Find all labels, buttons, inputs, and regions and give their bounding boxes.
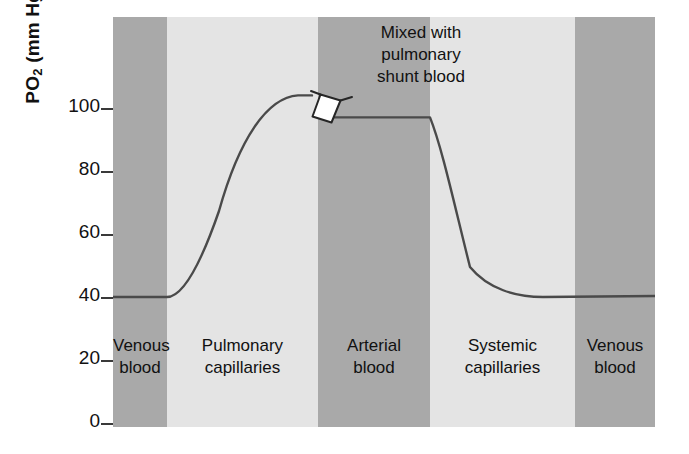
y-tick-mark-20 <box>101 360 113 362</box>
band-label-2: Arterialblood <box>318 335 430 379</box>
y-tick-mark-40 <box>101 297 113 299</box>
y-tick-label-20: 20 <box>52 347 100 369</box>
band-label-3: Systemiccapillaries <box>430 335 575 379</box>
y-tick-label-60: 60 <box>52 221 100 243</box>
band-label-line2: blood <box>575 357 655 379</box>
band-label-line1: Venous <box>575 335 655 357</box>
y-axis-title-units: (mm Hg) <box>22 0 43 68</box>
y-axis-title-subscript: 2 <box>30 68 45 75</box>
band-label-line1: Arterial <box>318 335 430 357</box>
band-label-line2: blood <box>113 357 167 379</box>
y-tick-label-0: 0 <box>52 410 100 432</box>
po2-curve-path <box>113 95 655 297</box>
band-label-0: Venousblood <box>113 335 167 379</box>
band-label-line1: Venous <box>113 335 167 357</box>
y-tick-label-80: 80 <box>52 158 100 180</box>
band-label-line1: Pulmonary <box>167 335 318 357</box>
shunt-annotation-text: Mixed with pulmonary shunt blood <box>341 22 501 88</box>
band-label-4: Venousblood <box>575 335 655 379</box>
y-tick-mark-80 <box>101 171 113 173</box>
y-tick-mark-0 <box>101 423 113 425</box>
y-tick-label-100: 100 <box>52 95 100 117</box>
band-label-line1: Systemic <box>430 335 575 357</box>
band-label-line2: capillaries <box>430 357 575 379</box>
y-tick-mark-100 <box>101 108 113 110</box>
po2-transport-chart: PO2 (mm Hg) 020406080100 VenousbloodPulm… <box>0 0 689 454</box>
y-tick-label-40: 40 <box>52 284 100 306</box>
y-axis-title: PO2 (mm Hg) <box>16 0 50 154</box>
y-tick-mark-60 <box>101 234 113 236</box>
band-label-line2: blood <box>318 357 430 379</box>
band-label-line2: capillaries <box>167 357 318 379</box>
y-axis-title-main: PO <box>22 76 43 104</box>
band-label-1: Pulmonarycapillaries <box>167 335 318 379</box>
